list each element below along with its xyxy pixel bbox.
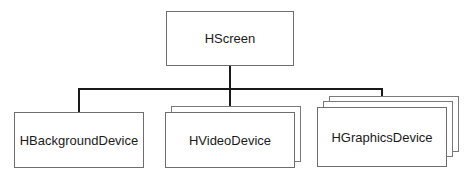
video-device-connector <box>229 88 231 106</box>
root-connector-vertical <box>229 65 231 90</box>
hgraphicsdevice-label: HGraphicsDevice <box>331 130 432 145</box>
hscreen-node: HScreen <box>166 11 294 66</box>
hvideodevice-label: HVideoDevice <box>189 133 271 148</box>
hgraphicsdevice-node: HGraphicsDevice <box>317 107 447 167</box>
hbackgrounddevice-node: HBackgroundDevice <box>14 112 144 168</box>
background-device-connector <box>78 88 80 112</box>
hscreen-label: HScreen <box>205 31 256 46</box>
graphics-device-connector <box>381 88 383 96</box>
hbackgrounddevice-label: HBackgroundDevice <box>20 133 139 148</box>
hvideodevice-node: HVideoDevice <box>165 112 295 168</box>
